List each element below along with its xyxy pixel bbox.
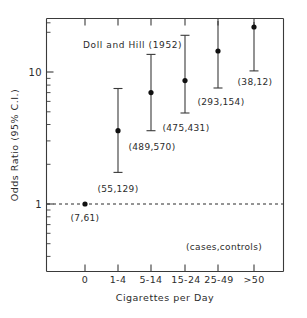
y-axis-title: Odds Ratio (95% C.I.) — [9, 89, 20, 201]
data-point-0 — [82, 201, 87, 206]
point-label-gt50: (38,12) — [238, 77, 273, 87]
data-point-gt50 — [251, 24, 256, 29]
x-tick-label-1-4: 1-4 — [110, 274, 127, 285]
figure-container: 10 1 0 1-4 5-14 15-24 25-49 >50 Cigarett… — [0, 0, 307, 318]
chart-title-annotation: Doll and Hill (1952) — [83, 40, 182, 50]
y-axis-ticks — [47, 23, 54, 257]
legend-note: (cases,controls) — [186, 242, 262, 252]
data-point-5-14 — [148, 90, 153, 95]
error-bar-25-49 — [214, 21, 223, 88]
point-label-25-49: (293,154) — [198, 97, 245, 107]
data-point-1-4 — [115, 128, 120, 133]
x-tick-label-5-14: 5-14 — [139, 274, 162, 285]
x-tick-label-25-49: 25-49 — [204, 274, 234, 285]
odds-ratio-scatter-chart: 10 1 0 1-4 5-14 15-24 25-49 >50 Cigarett… — [0, 0, 307, 318]
x-tick-label-15-24: 15-24 — [171, 274, 201, 285]
y-tick-label-10: 10 — [28, 67, 42, 78]
data-point-15-24 — [182, 78, 187, 83]
point-label-1-4: (55,129) — [98, 184, 139, 194]
x-tick-label-0: 0 — [82, 274, 88, 285]
point-label-15-24: (475,431) — [163, 123, 210, 133]
point-label-0: (7,61) — [71, 213, 100, 223]
x-axis-title: Cigarettes per Day — [116, 292, 215, 303]
data-points — [82, 24, 256, 206]
x-tick-label-gt50: >50 — [243, 274, 264, 285]
data-point-25-49 — [215, 48, 220, 53]
point-label-5-14: (489,570) — [129, 142, 176, 152]
y-tick-label-1: 1 — [35, 199, 42, 210]
